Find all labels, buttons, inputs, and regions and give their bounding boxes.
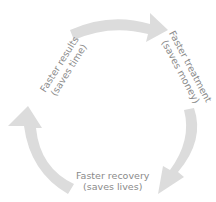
arrow-treatment-to-recovery [158, 108, 197, 194]
node-faster-recovery: Faster recovery (saves lives) [76, 170, 149, 192]
node-label: Faster recovery [76, 170, 149, 181]
node-sublabel: (saves lives) [76, 181, 149, 192]
arrow-results-to-treatment [70, 13, 168, 42]
arrow-recovery-to-results [8, 106, 74, 194]
